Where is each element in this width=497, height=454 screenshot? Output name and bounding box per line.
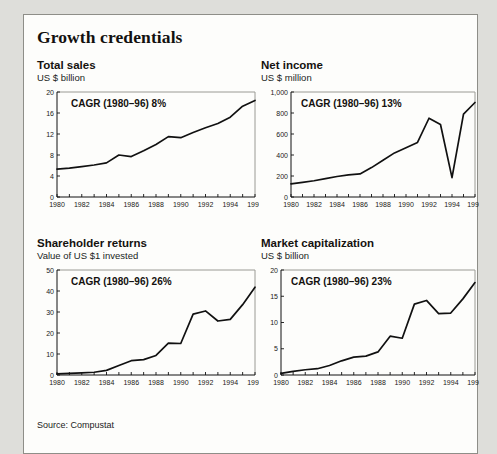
- chart-market-capitalization: Market capitalization US $ billion 05101…: [261, 237, 479, 392]
- svg-text:400: 400: [276, 152, 288, 159]
- plot-area: 0510152019801982198419861988199019921994…: [261, 264, 479, 392]
- svg-text:0: 0: [50, 194, 54, 201]
- svg-text:1980: 1980: [283, 201, 299, 208]
- svg-text:1990: 1990: [173, 201, 189, 208]
- chart-subtitle: US $ billion: [261, 250, 479, 262]
- chart-subtitle: Value of US $1 invested: [37, 250, 259, 262]
- figure-panel: Growth credentials Total sales US $ bill…: [23, 14, 478, 454]
- plot-area: 0481216201980198219841986198819901992199…: [37, 86, 259, 214]
- svg-text:15: 15: [270, 293, 278, 300]
- svg-text:10: 10: [46, 351, 54, 358]
- svg-text:1992: 1992: [198, 201, 214, 208]
- svg-text:16: 16: [46, 110, 54, 117]
- svg-text:0: 0: [274, 372, 278, 379]
- source-note: Source: Compustat: [37, 420, 114, 430]
- svg-text:1980: 1980: [273, 379, 289, 386]
- svg-text:1990: 1990: [394, 379, 410, 386]
- svg-text:1,000: 1,000: [270, 89, 288, 96]
- chart-shareholder-returns: Shareholder returns Value of US $1 inves…: [37, 237, 259, 392]
- svg-text:1986: 1986: [352, 201, 368, 208]
- svg-text:1982: 1982: [74, 379, 90, 386]
- svg-text:600: 600: [276, 131, 288, 138]
- svg-text:1994: 1994: [222, 201, 238, 208]
- svg-text:1982: 1982: [74, 201, 90, 208]
- svg-text:20: 20: [46, 330, 54, 337]
- svg-text:1984: 1984: [322, 379, 338, 386]
- svg-text:1988: 1988: [148, 379, 164, 386]
- chart-subtitle: US $ billion: [37, 72, 259, 84]
- chart-title: Total sales: [37, 59, 259, 72]
- chart-subtitle: US $ million: [261, 72, 479, 84]
- svg-text:1988: 1988: [148, 201, 164, 208]
- svg-text:1980: 1980: [49, 379, 65, 386]
- svg-text:1984: 1984: [99, 379, 115, 386]
- svg-text:1988: 1988: [375, 201, 391, 208]
- chart-title: Market capitalization: [261, 237, 479, 250]
- chart-annotation-cagr: CAGR (1980–96) 23%: [291, 276, 392, 287]
- chart-title: Net income: [261, 59, 479, 72]
- svg-text:30: 30: [46, 309, 54, 316]
- svg-text:1980: 1980: [49, 201, 65, 208]
- chart-annotation-cagr: CAGR (1980–96) 8%: [71, 98, 166, 109]
- svg-text:1992: 1992: [421, 201, 437, 208]
- svg-text:1988: 1988: [370, 379, 386, 386]
- svg-text:40: 40: [46, 288, 54, 295]
- svg-text:1986: 1986: [123, 379, 139, 386]
- svg-text:1996: 1996: [467, 379, 479, 386]
- page-title: Growth credentials: [37, 27, 183, 48]
- svg-text:0: 0: [50, 372, 54, 379]
- plot-area: 0102030405019801982198419861988199019921…: [37, 264, 259, 392]
- chart-total-sales: Total sales US $ billion 048121620198019…: [37, 59, 259, 214]
- chart-title: Shareholder returns: [37, 237, 259, 250]
- svg-text:1990: 1990: [398, 201, 414, 208]
- svg-text:0: 0: [284, 194, 288, 201]
- chart-annotation-cagr: CAGR (1980–96) 13%: [301, 98, 402, 109]
- svg-text:1982: 1982: [306, 201, 322, 208]
- svg-text:10: 10: [270, 319, 278, 326]
- svg-text:8: 8: [50, 152, 54, 159]
- svg-text:1996: 1996: [247, 201, 259, 208]
- svg-text:50: 50: [46, 267, 54, 274]
- svg-text:1992: 1992: [419, 379, 435, 386]
- svg-text:1986: 1986: [346, 379, 362, 386]
- svg-text:4: 4: [50, 173, 54, 180]
- svg-text:1994: 1994: [444, 201, 460, 208]
- svg-text:1986: 1986: [123, 201, 139, 208]
- svg-text:1990: 1990: [173, 379, 189, 386]
- svg-text:1984: 1984: [99, 201, 115, 208]
- svg-text:1994: 1994: [443, 379, 459, 386]
- svg-text:1982: 1982: [297, 379, 313, 386]
- svg-text:1992: 1992: [198, 379, 214, 386]
- chart-net-income: Net income US $ million 02004006008001,0…: [261, 59, 479, 214]
- svg-text:800: 800: [276, 110, 288, 117]
- svg-text:1996: 1996: [247, 379, 259, 386]
- svg-text:1984: 1984: [329, 201, 345, 208]
- svg-text:1996: 1996: [467, 201, 479, 208]
- svg-text:1994: 1994: [222, 379, 238, 386]
- svg-text:12: 12: [46, 131, 54, 138]
- chart-annotation-cagr: CAGR (1980–96) 26%: [71, 276, 172, 287]
- svg-text:200: 200: [276, 173, 288, 180]
- plot-area: 02004006008001,0001980198219841986198819…: [261, 86, 479, 214]
- svg-text:5: 5: [274, 345, 278, 352]
- svg-text:20: 20: [46, 89, 54, 96]
- svg-text:20: 20: [270, 267, 278, 274]
